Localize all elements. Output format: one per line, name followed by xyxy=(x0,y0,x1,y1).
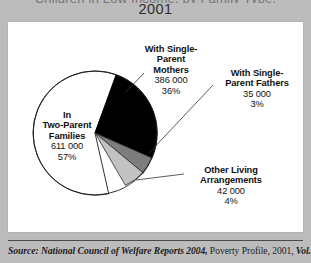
pie-label-other: Other Living Arrangements 42 000 4% xyxy=(184,165,278,207)
pie-label-two-parent: In Two-Parent Families 611 000 57% xyxy=(23,110,111,162)
pie-label-other-line1: Other Living xyxy=(184,165,278,175)
source-label: Source: xyxy=(8,245,39,256)
pie-label-mothers: With Single- Parent Mothers 386 000 36% xyxy=(132,44,210,96)
pie-label-two-parent-line3: Families xyxy=(23,131,111,141)
leader-line-other xyxy=(136,174,184,180)
source-roman-part: Poverty Profile, 2001, xyxy=(210,245,294,256)
pie-label-two-parent-line2: Two-Parent xyxy=(23,120,111,130)
pie-label-other-percent: 4% xyxy=(184,196,278,206)
pie-label-other-value: 42 000 xyxy=(184,186,278,196)
source-divider xyxy=(8,240,303,241)
pie-label-fathers: With Single- Parent Fathers 35 000 3% xyxy=(214,68,300,110)
pie-label-mothers-line3: Mothers xyxy=(132,65,210,75)
pie-label-mothers-percent: 36% xyxy=(132,86,210,96)
source-publication: National Council of Welfare Reports 2004… xyxy=(41,245,208,256)
pie-label-mothers-line2: Parent xyxy=(132,54,210,64)
pie-label-fathers-line2: Parent Fathers xyxy=(214,78,300,88)
pie-chart-panel: With Single- Parent Mothers 386 000 36% … xyxy=(8,22,303,232)
pie-label-two-parent-line1: In xyxy=(23,110,111,120)
pie-label-mothers-value: 386 000 xyxy=(132,75,210,85)
pie-label-fathers-value: 35 000 xyxy=(214,89,300,99)
pie-label-two-parent-value: 611 000 xyxy=(23,141,111,151)
pie-label-mothers-line1: With Single- xyxy=(132,44,210,54)
pie-label-other-line2: Arrangements xyxy=(184,175,278,185)
source-volume: Vol. xyxy=(296,245,311,256)
pie-label-two-parent-percent: 57% xyxy=(23,152,111,162)
pie-label-fathers-percent: 3% xyxy=(214,99,300,109)
pie-label-fathers-line1: With Single- xyxy=(214,68,300,78)
source-note: Source: National Council of Welfare Repo… xyxy=(8,245,308,256)
figure-root: Children in Low Income, by Family Type, … xyxy=(0,0,311,263)
figure-year-title: 2001 xyxy=(0,1,311,17)
